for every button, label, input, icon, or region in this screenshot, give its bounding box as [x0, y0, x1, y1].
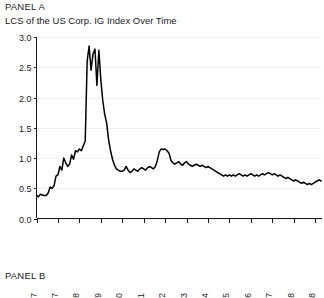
gridlines [37, 38, 322, 220]
x-tick-label: Dec-07 [50, 293, 60, 298]
x-tick-label: Dec-18 [307, 293, 317, 298]
x-tick-label: Mar-16 [243, 293, 253, 298]
x-tick-label: May-14 [200, 293, 210, 298]
x-tick-label: Jun-13 [179, 293, 189, 298]
chart-title: LCS of the US Corp. IG Index Over Time [5, 15, 177, 26]
y-tick-label: 3.0 [19, 33, 32, 43]
line-chart: 0.00.51.01.52.02.53.0 Jan-07Dec-07Nov-08… [0, 28, 324, 228]
chart-plot-svg: 0.00.51.01.52.02.53.0 [0, 28, 324, 228]
x-tick-label: Apr-15 [221, 293, 231, 298]
y-tick-label: 2.0 [19, 94, 32, 104]
x-tick-label: Jan-07 [29, 293, 39, 298]
x-tick-label: Aug-11 [136, 293, 146, 298]
x-tick-label: Nov-08 [71, 293, 81, 298]
y-tick-label: 0.0 [19, 215, 32, 225]
y-tick-label: 1.0 [19, 154, 32, 164]
x-tick-label: Sep-10 [114, 293, 124, 298]
y-tick-label: 1.5 [19, 124, 32, 134]
y-axis-labels: 0.00.51.01.52.02.53.0 [19, 33, 32, 225]
x-axis-labels: Jan-07Dec-07Nov-08Oct-09Sep-10Aug-11Jul-… [0, 250, 324, 298]
y-tick-label: 0.5 [19, 184, 32, 194]
x-tick-label: Feb-17 [264, 293, 274, 298]
x-tick-label: Jan-18 [286, 293, 296, 298]
x-tick-label: Jul-12 [157, 293, 167, 298]
panel-b-label: PANEL B [5, 270, 45, 281]
panel-a-label: PANEL A [5, 1, 45, 12]
y-tick-label: 2.5 [19, 63, 32, 73]
data-series-line [37, 46, 322, 197]
x-tick-label: Oct-09 [93, 293, 103, 298]
